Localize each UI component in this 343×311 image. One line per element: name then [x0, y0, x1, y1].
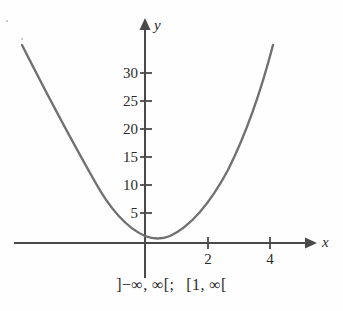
x-tick-label-2: 2: [198, 252, 218, 267]
y-tick-label-15: 15: [104, 150, 138, 165]
caption-range: [1, ∞[: [186, 276, 226, 293]
axes-group: [14, 18, 317, 278]
y-tick-label-30: 30: [104, 66, 138, 81]
y-axis-label: y: [154, 17, 161, 34]
y-tick-label-20: 20: [104, 122, 138, 137]
y-tick-label-25: 25: [104, 94, 138, 109]
caption: ]−∞, ∞[;[1, ∞[: [0, 276, 343, 294]
y-tick-label-10: 10: [104, 178, 138, 193]
caption-domain: ]−∞, ∞[;: [116, 276, 174, 293]
x-tick-label-4: 4: [260, 252, 280, 267]
parabola-plot: [0, 0, 343, 311]
x-axis-label: x: [322, 234, 329, 251]
x-axis-arrowhead: [305, 238, 317, 249]
y-tick-label-5: 5: [104, 206, 138, 221]
figure-container: 30 25 20 15 10 5 2 4 y x ]−∞, ∞[;[1, ∞[: [0, 0, 343, 311]
parabola-curve: [22, 45, 273, 239]
y-axis-arrowhead: [140, 18, 151, 30]
